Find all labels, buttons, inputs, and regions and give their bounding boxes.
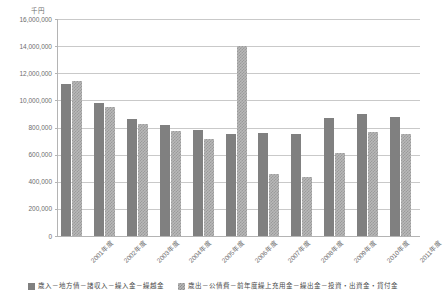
x-axis-tick-label: 2010年度 bbox=[385, 239, 411, 265]
x-axis-tick-label: 2005年度 bbox=[221, 239, 247, 265]
bar bbox=[127, 119, 137, 236]
bar-group bbox=[58, 19, 91, 236]
y-axis-tick-label: 200,000 bbox=[0, 205, 52, 212]
bar bbox=[160, 125, 170, 236]
legend-swatch-icon bbox=[178, 283, 185, 290]
clipped-header-text bbox=[0, 0, 426, 7]
bar bbox=[390, 117, 400, 236]
bar bbox=[237, 46, 247, 236]
bar-group bbox=[321, 19, 354, 236]
x-axis-tick-label: 2009年度 bbox=[352, 239, 378, 265]
bar-group bbox=[157, 19, 190, 236]
bar-group bbox=[255, 19, 288, 236]
bar-group bbox=[387, 19, 420, 236]
y-axis-tick-label: 16,000,000 bbox=[0, 16, 52, 23]
legend-item[interactable]: 歳出－公債費－前年度繰上充用金－繰出金－投資・出資金・貸付金 bbox=[178, 282, 398, 290]
legend-item[interactable]: 歳入－地方債－諸収入－繰入金－繰越金 bbox=[28, 282, 164, 290]
x-axis-labels: 2001年度2002年度2003年度2004年度2005年度2006年度2007… bbox=[57, 237, 419, 279]
bar bbox=[324, 118, 334, 236]
x-axis-tick-label: 2007年度 bbox=[286, 239, 312, 265]
plot-area bbox=[57, 19, 420, 237]
bar-group bbox=[190, 19, 223, 236]
x-axis-tick-label: 2011年度 bbox=[418, 239, 443, 264]
bar bbox=[335, 153, 345, 236]
y-axis-tick-label: 600,000 bbox=[0, 151, 52, 158]
y-axis-tick-label: 800,000 bbox=[0, 124, 52, 131]
bar bbox=[105, 107, 115, 236]
bars-layer bbox=[58, 19, 420, 236]
legend-swatch-icon bbox=[28, 283, 35, 290]
bar bbox=[368, 132, 378, 236]
legend-label: 歳入－地方債－諸収入－繰入金－繰越金 bbox=[38, 282, 164, 290]
y-axis-tick-label: 12,000,000 bbox=[0, 70, 52, 77]
bar-group bbox=[288, 19, 321, 236]
bar bbox=[61, 84, 71, 236]
bar bbox=[258, 133, 268, 236]
x-axis-tick-label: 2002年度 bbox=[122, 239, 148, 265]
bar bbox=[401, 134, 411, 236]
x-axis-tick-label: 2003年度 bbox=[155, 239, 181, 265]
bar-group bbox=[354, 19, 387, 236]
y-axis-tick-label: 10,000,000 bbox=[0, 97, 52, 104]
bar bbox=[171, 131, 181, 236]
bar-group bbox=[124, 19, 157, 236]
bar bbox=[357, 114, 367, 236]
legend-label: 歳出－公債費－前年度繰上充用金－繰出金－投資・出資金・貸付金 bbox=[188, 282, 398, 290]
y-axis-unit-label: 千円 bbox=[31, 6, 45, 15]
x-axis-tick-label: 2004年度 bbox=[188, 239, 214, 265]
x-axis-tick-label: 2008年度 bbox=[319, 239, 345, 265]
y-axis-tick-label: 400,000 bbox=[0, 178, 52, 185]
bar bbox=[269, 174, 279, 236]
bar bbox=[204, 139, 214, 236]
x-axis-tick-label: 2001年度 bbox=[89, 239, 115, 265]
bar bbox=[138, 124, 148, 236]
bar-group bbox=[223, 19, 256, 236]
bar bbox=[291, 134, 301, 236]
bar bbox=[94, 103, 104, 236]
y-axis-tick-label: 14,000,000 bbox=[0, 43, 52, 50]
bar bbox=[193, 130, 203, 236]
bar bbox=[72, 81, 82, 236]
bar bbox=[302, 177, 312, 236]
y-axis-tick-label: 0 bbox=[0, 233, 52, 240]
x-axis-tick-label: 2006年度 bbox=[254, 239, 280, 265]
bar bbox=[226, 134, 236, 236]
legend: 歳入－地方債－諸収入－繰入金－繰越金歳出－公債費－前年度繰上充用金－繰出金－投資… bbox=[0, 282, 426, 290]
bar-group bbox=[91, 19, 124, 236]
